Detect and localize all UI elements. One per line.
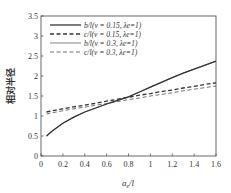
y-axis-title: 相对半径 <box>5 68 16 104</box>
x-tick-label: 0.6 <box>102 160 112 169</box>
chart: 00.20.40.60.811.21.41.6 00.511.522.533.5… <box>0 0 231 193</box>
x-tick-label: 1.4 <box>189 160 199 169</box>
series-line-3 <box>47 86 217 114</box>
y-tick-label: 2.5 <box>28 52 38 61</box>
y-tick-label: 3 <box>34 32 38 41</box>
legend-label: c/l(ν = 0.15, λe=1) <box>84 30 141 39</box>
y-tick-label: 3.5 <box>28 12 38 21</box>
legend-label: b/l(ν = 0.15, λe=1) <box>84 21 142 30</box>
series-line-2 <box>47 61 217 136</box>
y-tick-label: 0.5 <box>28 132 38 141</box>
y-tick-label: 1 <box>34 112 38 121</box>
x-tick-label: 0.2 <box>58 160 68 169</box>
legend-label: b/l(ν = 0.3, λe=1) <box>84 39 138 48</box>
y-tick-label: 1.5 <box>28 92 38 101</box>
x-tick-label: 0.4 <box>80 160 90 169</box>
x-tick-label: 0.8 <box>124 160 134 169</box>
x-tick-label: 1 <box>148 160 152 169</box>
y-tick-label: 0 <box>34 152 38 161</box>
x-tick-label: 0 <box>39 160 43 169</box>
series-line-1 <box>47 83 217 112</box>
series-group <box>47 61 217 136</box>
x-axis-title: ae/l <box>122 178 135 189</box>
y-tick-label: 2 <box>34 72 38 81</box>
series-line-0 <box>47 61 217 136</box>
legend-label: c/l(ν = 0.3, λe=1) <box>84 48 138 57</box>
x-tick-label: 1.6 <box>211 160 221 169</box>
x-tick-label: 1.2 <box>167 160 177 169</box>
legend: b/l(ν = 0.15, λe=1)c/l(ν = 0.15, λe=1)b/… <box>50 21 142 57</box>
